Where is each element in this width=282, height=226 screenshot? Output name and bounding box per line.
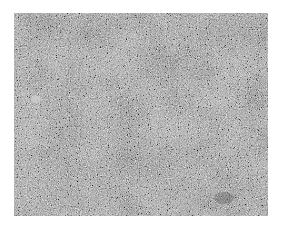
light-patch xyxy=(175,195,203,211)
noise-texture-graphic xyxy=(14,13,268,216)
light-patch xyxy=(31,95,41,103)
texture-photo xyxy=(14,13,268,216)
texture-blotches xyxy=(14,13,268,216)
dark-patch xyxy=(214,192,234,204)
